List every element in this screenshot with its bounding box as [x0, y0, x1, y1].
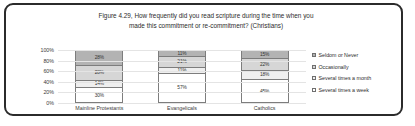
legend-item-label: Occasionally	[319, 64, 349, 70]
stacked-bar[interactable]: 57%11%21%11%	[158, 50, 206, 103]
plot-area: 30%14%28%28%57%11%21%11%45%18%22%15%	[58, 50, 306, 103]
bar-segment-value-label: 18%	[260, 72, 269, 77]
bar-segment[interactable]: 15%	[241, 50, 289, 58]
bar-segment-value-label: 22%	[260, 62, 269, 67]
bar-segment-value-label: 57%	[177, 85, 186, 90]
x-axis-category-labels: Mainline ProtestantsEvangelicalsCatholic…	[58, 105, 306, 111]
legend-item-label: Several times a week	[319, 87, 369, 93]
x-axis-category-label: Mainline Protestants	[64, 105, 134, 111]
legend-swatch-icon	[312, 53, 316, 57]
chart-title-line-1: Figure 4.29, How frequently did you read…	[46, 11, 366, 21]
legend-swatch-icon	[312, 65, 316, 69]
stacked-bar[interactable]: 30%14%28%28%	[75, 50, 123, 103]
gridline	[58, 71, 306, 72]
y-axis-tick-labels: 100%80%60%40%20%0%	[6, 50, 56, 103]
legend-swatch-icon	[312, 88, 316, 92]
legend-item-label: Several times a month	[319, 75, 372, 81]
bar-segment[interactable]: 30%	[75, 87, 123, 103]
bar-segment[interactable]: 28%	[75, 65, 123, 80]
legend-item[interactable]: Occasionally	[312, 64, 408, 70]
chart-title: Figure 4.29, How frequently did you read…	[46, 11, 366, 30]
bar-segment[interactable]: 28%	[75, 50, 123, 65]
chart-title-line-2: made this commitment or re-commitment? (…	[46, 21, 366, 31]
y-axis-tick-label: 40%	[43, 79, 54, 85]
bar-segment[interactable]: 57%	[158, 73, 206, 103]
gridline	[58, 92, 306, 93]
chart-legend: Seldom or NeverOccasionallySeveral times…	[312, 52, 408, 98]
legend-item[interactable]: Several times a week	[312, 87, 408, 93]
y-axis-tick-label: 100%	[40, 47, 54, 53]
x-axis-category-label: Evangelicals	[147, 105, 217, 111]
legend-swatch-icon	[312, 76, 316, 80]
legend-item[interactable]: Seldom or Never	[312, 52, 408, 58]
legend-item[interactable]: Several times a month	[312, 75, 408, 81]
chart-frame: Figure 4.29, How frequently did you read…	[4, 3, 403, 116]
legend-item-label: Seldom or Never	[319, 52, 359, 58]
y-axis-tick-label: 80%	[43, 58, 54, 64]
bar-group: 30%14%28%28%57%11%21%11%45%18%22%15%	[58, 50, 306, 103]
gridline	[58, 50, 306, 51]
gridline	[58, 103, 306, 104]
gridline	[58, 61, 306, 62]
gridline	[58, 82, 306, 83]
bar-segment-value-label: 11%	[178, 51, 187, 56]
bar-segment-value-label: 15%	[260, 52, 269, 57]
y-axis-tick-label: 20%	[43, 89, 54, 95]
y-axis-tick-label: 0%	[46, 100, 54, 106]
stacked-bar[interactable]: 45%18%22%15%	[241, 50, 289, 103]
y-axis-tick-label: 60%	[43, 68, 54, 74]
x-axis-category-label: Catholics	[230, 105, 300, 111]
